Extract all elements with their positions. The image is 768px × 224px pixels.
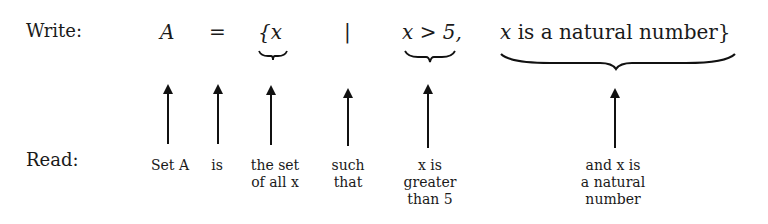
read-line: the set	[251, 157, 299, 174]
set-A-symbol: A	[160, 20, 174, 44]
arrow-greater-than-5	[427, 92, 429, 148]
read-set-A: Set A	[151, 157, 189, 174]
read-label: Read:	[26, 149, 79, 170]
read-line: number	[581, 191, 645, 208]
arrow-natural-number	[614, 96, 616, 148]
arrow-set-A	[167, 92, 169, 144]
condition-natural-number: x is a natural number}	[500, 20, 731, 44]
read-line: such	[331, 157, 364, 174]
read-is: is	[211, 157, 223, 174]
read-line: greater	[404, 174, 457, 191]
read-line: and x is	[581, 157, 645, 174]
write-label: Write:	[26, 20, 82, 41]
underbrace-x	[258, 50, 288, 62]
arrow-such-that	[347, 96, 349, 146]
set-open-x: {x	[258, 20, 282, 44]
read-such-that: such that	[331, 157, 364, 191]
read-line: x is	[404, 157, 457, 174]
read-x-natural-number: and x is a natural number	[581, 157, 645, 208]
underbrace-natural-number	[500, 52, 736, 72]
equals-symbol: =	[209, 20, 226, 44]
read-line: a natural	[581, 174, 645, 191]
read-x-greater-than-5: x is greater than 5	[404, 157, 457, 208]
read-line: than 5	[404, 191, 457, 208]
read-line: of all x	[251, 174, 299, 191]
arrow-is	[217, 92, 219, 144]
read-line: that	[331, 174, 364, 191]
read-the-set-of-all-x: the set of all x	[251, 157, 299, 191]
read-line: Set A	[151, 157, 189, 174]
arrow-set-of-all-x	[270, 93, 272, 145]
such-that-bar: |	[344, 19, 351, 43]
condition-greater-than-5: x > 5,	[402, 20, 462, 44]
underbrace-greater-than-5	[404, 50, 456, 64]
read-line: is	[211, 157, 223, 174]
cond2-var: x	[500, 20, 511, 44]
cond2-text: is a natural number}	[511, 20, 730, 44]
